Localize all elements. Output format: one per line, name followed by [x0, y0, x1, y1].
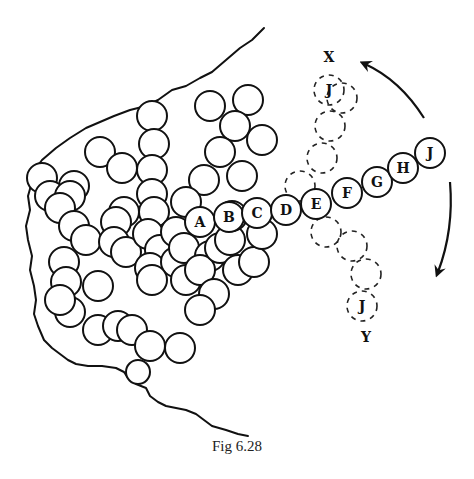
chain-label-e: E — [311, 196, 322, 212]
counter-clockwise-arrow-icon — [365, 64, 424, 118]
ghost-end-label-y: J — [357, 298, 366, 314]
chain-label-d: D — [280, 202, 292, 218]
clockwise-arrow-icon — [438, 182, 451, 272]
ghost-end-label-x: J — [324, 82, 333, 98]
chain-label-c: C — [251, 205, 262, 221]
figure-caption: Fig 6.28 — [0, 438, 474, 455]
chain-label-a: A — [194, 214, 207, 230]
crystal-chain-diagram: J J A B C D E F G H J X Y — [0, 0, 474, 479]
chain-label-g: G — [371, 174, 383, 190]
direction-label-y: Y — [360, 329, 372, 345]
chain-label-f: F — [342, 185, 352, 201]
ghost-chain-y: J — [311, 217, 381, 321]
chain-label-h: H — [396, 160, 409, 176]
crystal-cluster — [27, 85, 277, 384]
direction-label-x: X — [324, 49, 335, 65]
chain-label-j: J — [425, 145, 434, 161]
chain-label-b: B — [223, 209, 235, 225]
ghost-chain-x-end: J — [314, 75, 344, 105]
